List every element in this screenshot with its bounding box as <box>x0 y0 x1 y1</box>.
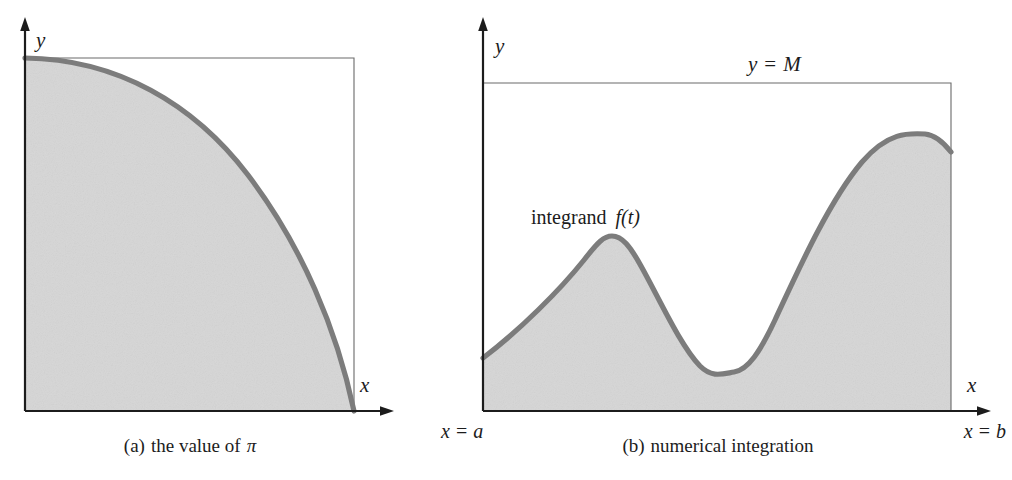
panel-b-top-line-label-eq: = <box>764 52 776 76</box>
figure-container: y x (a)the value ofπ <box>0 0 1012 480</box>
panel-b: y x y=M integrandf(t) x=a <box>440 17 1006 457</box>
panel-a-caption: (a)the value ofπ <box>124 435 257 457</box>
panel-b-y-axis <box>478 17 488 411</box>
panel-b-curve-label: integrandf(t) <box>531 206 640 229</box>
panel-b-caption: (b)numerical integration <box>622 435 814 457</box>
panel-b-caption-body: numerical integration <box>651 435 815 456</box>
panel-b-top-line-label-m: M <box>782 52 802 76</box>
panel-b-caption-prefix: (b) <box>622 435 644 457</box>
panel-b-right-bound-eq: = <box>979 420 990 442</box>
panel-b-right-bound-x: x <box>963 420 973 442</box>
panel-a-caption-body: the value of <box>151 435 241 456</box>
panel-b-left-bound-label: x=a <box>440 420 483 442</box>
panel-b-curve-label-words: integrand <box>531 206 607 229</box>
svg-text:x=a: x=a <box>440 420 483 442</box>
panel-b-x-axis-label: x <box>966 373 977 397</box>
figure-svg: y x (a)the value ofπ <box>0 0 1012 480</box>
panel-b-left-bound-val: a <box>473 420 483 442</box>
panel-b-top-line-label-y: y <box>746 52 758 76</box>
svg-text:(a)the value ofπ: (a)the value ofπ <box>124 435 257 457</box>
panel-a-x-axis-label: x <box>359 373 370 397</box>
svg-text:y=M: y=M <box>746 52 802 76</box>
svg-text:x=b: x=b <box>963 420 1006 442</box>
svg-text:integrandf(t): integrandf(t) <box>531 206 640 229</box>
panel-b-left-bound-x: x <box>440 420 450 442</box>
panel-b-right-bound-val: b <box>996 420 1006 442</box>
panel-a-caption-symbol: π <box>247 435 257 456</box>
svg-text:(b)numerical integration: (b)numerical integration <box>622 435 814 457</box>
panel-a: y x (a)the value ofπ <box>20 17 394 457</box>
panel-a-caption-prefix: (a) <box>124 435 145 457</box>
panel-b-right-bound-label: x=b <box>963 420 1006 442</box>
panel-b-top-line-label: y=M <box>746 52 802 76</box>
panel-b-shaded-region <box>483 134 951 411</box>
panel-b-y-axis-label: y <box>493 34 505 58</box>
panel-a-shaded-region <box>25 58 354 411</box>
panel-a-y-axis-label: y <box>34 28 46 52</box>
panel-b-curve-label-fn: f(t) <box>616 206 641 229</box>
panel-b-left-bound-eq: = <box>456 420 467 442</box>
